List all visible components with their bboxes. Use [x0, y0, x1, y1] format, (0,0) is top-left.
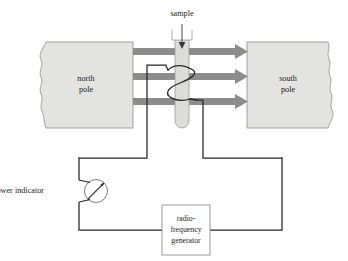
power-indicator-label: power indicator — [0, 186, 44, 195]
sample-tube-rim-right — [189, 30, 192, 40]
radio-frequency-generator[interactable]: radio- frequency generator — [162, 205, 210, 255]
generator-label-line2: frequency — [170, 225, 201, 234]
diagram-canvas: north pole south pole — [0, 0, 348, 261]
south-pole-label-line1: south — [279, 74, 297, 83]
field-arrow-3 — [133, 94, 248, 109]
north-pole-magnet: north pole — [40, 42, 133, 128]
sample-label: sample — [170, 9, 194, 18]
coil-lead-top — [166, 66, 168, 70]
field-arrow-1 — [133, 44, 248, 59]
generator-label-line3: generator — [171, 236, 201, 245]
generator-label-line1: radio- — [177, 214, 196, 223]
south-pole-magnet: south pole — [247, 42, 333, 128]
south-pole-label-line2: pole — [281, 85, 295, 94]
north-pole-label-line1: north — [77, 74, 94, 83]
wire-right-rail — [210, 158, 282, 230]
field-arrow-2 — [133, 69, 248, 84]
nmr-spectrometer-diagram: north pole south pole — [0, 0, 348, 261]
power-indicator-lead-top — [79, 180, 90, 183]
power-indicator-lead-bottom — [79, 200, 90, 203]
wire-left-rail-lower — [79, 203, 162, 231]
sample-tube-rim-left — [172, 30, 175, 40]
power-indicator[interactable]: power indicator — [0, 180, 108, 203]
north-pole-label-line2: pole — [79, 85, 93, 94]
